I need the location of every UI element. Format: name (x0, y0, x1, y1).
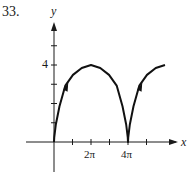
cycloid-curve (54, 65, 165, 142)
x-axis-arrow-icon (169, 139, 178, 145)
cycloid-plot (0, 0, 193, 185)
y-axis-arrow-icon (51, 22, 57, 31)
axes (26, 26, 176, 172)
